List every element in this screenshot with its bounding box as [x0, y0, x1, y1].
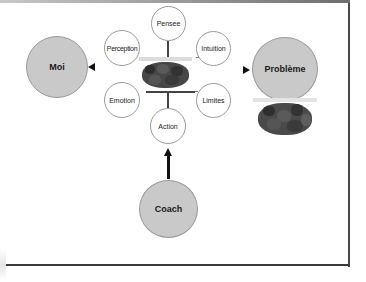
node-limites-label: Limites	[202, 97, 224, 104]
node-moi-label: Moi	[49, 62, 65, 72]
frame-corner-shadow	[0, 250, 6, 280]
center-raisins-image	[139, 57, 192, 90]
node-moi: Moi	[26, 36, 88, 98]
node-coach: Coach	[139, 180, 198, 238]
node-probleme-label: Problème	[264, 64, 305, 74]
node-limites: Limites	[196, 83, 231, 118]
node-probleme: Problème	[252, 37, 318, 101]
arrow-left-icon	[88, 63, 95, 71]
node-emotion: Emotion	[104, 82, 140, 118]
node-action-label: Action	[158, 123, 177, 130]
node-intuition: Intuition	[196, 31, 231, 66]
arrow-right-icon	[243, 66, 250, 74]
node-intuition-label: Intuition	[201, 45, 226, 52]
node-pensee: Pensee	[151, 6, 186, 41]
node-perception-label: Perception	[107, 45, 137, 52]
problem-raisins-image	[253, 98, 317, 138]
frame-top-border	[0, 0, 350, 3]
node-emotion-label: Emotion	[109, 97, 135, 104]
node-perception: Perception	[104, 30, 140, 66]
connector-pensee	[167, 41, 169, 57]
frame-bottom-border	[3, 264, 350, 266]
center-base-line	[146, 91, 195, 93]
connector-action	[167, 93, 169, 109]
node-coach-label: Coach	[155, 204, 183, 214]
frame-right-border	[348, 3, 350, 267]
arrow-up-shaft	[167, 155, 170, 179]
node-pensee-label: Pensee	[157, 20, 181, 27]
node-action: Action	[150, 108, 186, 144]
